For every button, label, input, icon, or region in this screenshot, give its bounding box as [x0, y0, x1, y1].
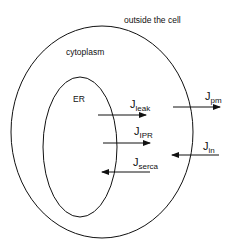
flux-subscript: pm: [211, 96, 222, 105]
flux-subscript: in: [209, 146, 215, 155]
er-label: ER: [73, 95, 85, 104]
flux-subscript: serca: [139, 162, 159, 171]
flux-subscript: IPR: [140, 131, 153, 140]
j-in-label: Jin: [203, 141, 215, 155]
flux-subscript: leak: [136, 104, 151, 113]
j-serca-label: Jserca: [133, 157, 158, 171]
cell-membrane: [11, 26, 193, 238]
cell-diagram: [0, 0, 232, 246]
j-ipr-label: JIPR: [134, 126, 153, 140]
outside-cell-label: outside the cell: [124, 16, 181, 25]
cytoplasm-label: cytoplasm: [66, 48, 104, 57]
j-leak-label: Jleak: [130, 99, 150, 113]
j-pm-label: Jpm: [205, 91, 222, 105]
